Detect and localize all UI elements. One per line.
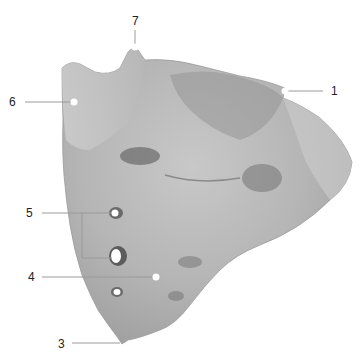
sacrum-diagram <box>0 0 363 361</box>
foramen-lower-left-inner <box>111 249 121 263</box>
label-7: 7 <box>132 15 139 27</box>
foramen-right-mid <box>178 256 202 268</box>
foramen-bottom-left-inner <box>114 289 121 295</box>
label-6: 6 <box>9 96 16 108</box>
foramen-bottom-right <box>168 291 184 301</box>
label-4: 4 <box>28 271 35 283</box>
foramen-upper-left <box>120 147 160 165</box>
label-3: 3 <box>58 338 65 350</box>
foramen-upper-right <box>242 164 282 192</box>
label-5: 5 <box>26 207 33 219</box>
label-1: 1 <box>331 85 338 97</box>
